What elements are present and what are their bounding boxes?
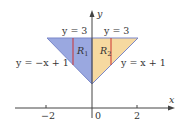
label-right-line: y = x + 1	[120, 57, 166, 68]
y-axis-arrow-icon	[90, 10, 95, 17]
label-left-line: y = −x + 1	[15, 57, 69, 68]
region-diagram: y x −2 0 2 y = 3 y = 3 y = −x + 1 y = x …	[0, 0, 185, 133]
y-axis-label: y	[96, 8, 103, 19]
label-top-left: y = 3	[61, 25, 87, 36]
x-axis-arrow-icon	[168, 106, 175, 111]
tick-label-neg2: −2	[41, 110, 55, 121]
x-axis-label: x	[169, 94, 175, 105]
label-top-right: y = 3	[103, 25, 129, 36]
tick-label-0: 0	[95, 110, 101, 121]
tick-label-2: 2	[134, 110, 140, 121]
